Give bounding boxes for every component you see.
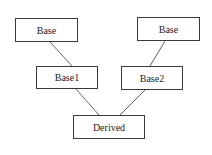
edge-base1-to-derived xyxy=(76,89,99,115)
node-label: Base xyxy=(37,25,56,36)
node-base2: Base2 xyxy=(121,66,183,90)
node-derived: Derived xyxy=(73,115,145,139)
edge-base2-to-derived xyxy=(120,90,145,115)
edge-base-left-to-base1 xyxy=(50,42,72,66)
node-base-right: Base xyxy=(137,17,200,41)
node-label: Base xyxy=(159,24,178,35)
inheritance-diagram: Base Base Base1 Base2 Derived xyxy=(0,0,212,155)
node-label: Base1 xyxy=(55,72,79,83)
edge-base-right-to-base2 xyxy=(150,41,165,66)
node-base1: Base1 xyxy=(36,66,98,89)
node-label: Base2 xyxy=(140,73,164,84)
node-label: Derived xyxy=(93,122,125,133)
node-base-left: Base xyxy=(15,18,78,42)
